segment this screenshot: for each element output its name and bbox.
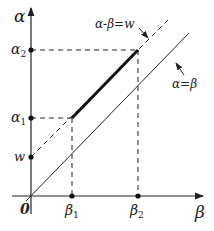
alpha-equals-beta-line [26,33,189,201]
diagram-canvas: α β 0 α2 α1 w β1 β2 α-β=w α=β [0,0,214,231]
beta2-label: β2 [129,202,144,220]
w-point [28,154,33,159]
diagonal-line-label: α=β [172,77,197,91]
feasible-segment [72,50,138,118]
y-axis-label: α [14,6,26,26]
alpha1-label: α1 [11,109,26,127]
w-label: w [14,149,25,164]
offset-line-label: α-β=w [95,17,135,31]
alpha1-point [28,115,33,120]
offset-label-pointer [139,28,148,38]
alpha2-label: α2 [11,41,26,59]
beta2-point [135,193,140,198]
x-axis-label: β [194,202,205,222]
beta1-point [69,193,74,198]
beta1-label: β1 [64,202,79,220]
origin-label: 0 [20,201,30,217]
alpha2-point [28,47,33,52]
diagonal-label-pointer [176,63,184,75]
